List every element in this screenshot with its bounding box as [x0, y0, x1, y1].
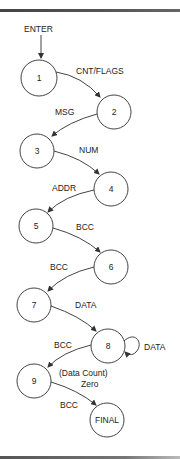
edge-label-bcc-5-6: BCC — [76, 222, 94, 232]
node-1-label: 1 — [29, 73, 49, 83]
node-9-label: 9 — [24, 376, 44, 386]
edge-condition-line2: Zero — [81, 379, 98, 389]
edge-label-addr: ADDR — [52, 183, 76, 193]
edge-label-bcc-8-9: BCC — [54, 340, 72, 350]
edge-label-data-self: DATA — [144, 342, 165, 352]
node-7-label: 7 — [24, 300, 44, 310]
edge-label-bcc-9-final: BCC — [60, 400, 78, 410]
node-4-label: 4 — [101, 184, 121, 194]
entry-label: ENTER — [24, 24, 53, 34]
edge-label-bcc-6-7: BCC — [50, 262, 68, 272]
edge-condition-line1: (Data Count) — [59, 368, 108, 378]
edge-2-3 — [52, 114, 97, 136]
node-5-label: 5 — [26, 221, 46, 231]
edge-4-5 — [48, 190, 94, 212]
node-8-label: 8 — [98, 341, 118, 351]
edge-8-self-loop — [124, 337, 139, 355]
node-2-label: 2 — [104, 107, 124, 117]
edge-label-msg: MSG — [55, 107, 74, 117]
edge-label-num: NUM — [79, 145, 98, 155]
node-3-label: 3 — [27, 146, 47, 156]
edge-label-cnt-flags: CNT/FLAGS — [76, 66, 124, 76]
node-6-label: 6 — [101, 262, 121, 272]
node-final-label: FINAL — [90, 415, 124, 425]
edge-label-data-7-8: DATA — [75, 300, 96, 310]
